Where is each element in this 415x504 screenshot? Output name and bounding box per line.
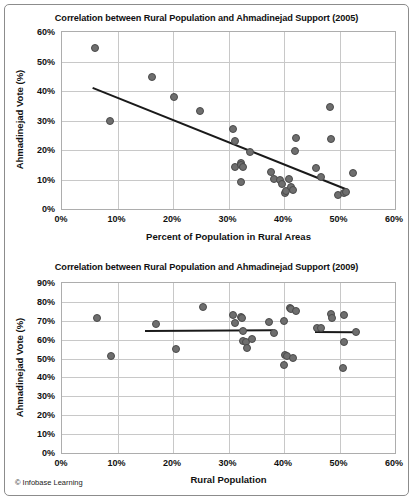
gridline-vertical	[118, 283, 119, 453]
scatter-point	[270, 329, 278, 337]
scatter-point	[172, 345, 180, 353]
chart-title-2009: Correlation between Rural Population and…	[5, 262, 408, 272]
trend-line	[92, 87, 348, 191]
chart-panel-2005: Correlation between Rural Population and…	[5, 5, 408, 253]
y-tick-label: 90%	[7, 278, 55, 288]
scatter-point	[342, 188, 350, 196]
scatter-point	[243, 344, 251, 352]
scatter-point	[229, 125, 237, 133]
gridline-vertical	[229, 283, 230, 453]
y-tick-label: 0%	[7, 448, 55, 458]
scatter-point	[285, 175, 293, 183]
y-tick-label: 80%	[7, 297, 55, 307]
scatter-point	[292, 307, 300, 315]
y-tick-label: 0%	[7, 204, 55, 214]
x-tick-label: 10%	[97, 214, 137, 224]
scatter-point	[339, 364, 347, 372]
scatter-point	[349, 169, 357, 177]
scatter-point	[317, 324, 325, 332]
x-tick-label: 50%	[319, 214, 359, 224]
scatter-point	[327, 135, 335, 143]
chart-title-2005: Correlation between Rural Population and…	[5, 13, 408, 23]
scatter-point	[289, 186, 297, 194]
gridline-vertical	[340, 32, 341, 209]
scatter-point	[291, 147, 299, 155]
x-tick-label: 20%	[152, 214, 192, 224]
copyright-credit: © Infobase Learning	[15, 478, 83, 487]
scatter-point	[317, 173, 325, 181]
x-tick-label: 30%	[208, 458, 248, 468]
scatter-point	[239, 327, 247, 335]
trend-line	[145, 329, 273, 332]
plot-area-2009	[61, 282, 396, 454]
y-tick-label: 10%	[7, 429, 55, 439]
scatter-point	[106, 117, 114, 125]
y-axis-title-2009: Ahmadinejad Vote (%)	[14, 308, 25, 428]
scatter-point	[289, 354, 297, 362]
x-tick-label: 20%	[152, 458, 192, 468]
scatter-point	[280, 361, 288, 369]
x-axis-title-2009: Rural Population	[61, 474, 396, 485]
scatter-point	[237, 178, 245, 186]
figure-frame: Correlation between Rural Population and…	[4, 4, 409, 496]
scatter-point	[91, 44, 99, 52]
scatter-point	[246, 148, 254, 156]
gridline-vertical	[229, 32, 230, 209]
x-tick-label: 60%	[374, 458, 414, 468]
scatter-point	[199, 303, 207, 311]
x-tick-label: 60%	[374, 214, 414, 224]
gridline-vertical	[118, 32, 119, 209]
x-tick-label: 50%	[319, 458, 359, 468]
x-axis-title-2005: Percent of Population in Rural Areas	[61, 231, 396, 242]
x-tick-label: 40%	[263, 214, 303, 224]
scatter-point	[292, 134, 300, 142]
scatter-point	[312, 164, 320, 172]
scatter-point	[152, 320, 160, 328]
scatter-point	[170, 93, 178, 101]
scatter-point	[352, 328, 360, 336]
x-tick-label: 40%	[263, 458, 303, 468]
gridline-vertical	[173, 283, 174, 453]
plot-area-2005	[61, 31, 396, 210]
scatter-point	[239, 163, 247, 171]
y-axis-title-2005: Ahmadinejad Vote (%)	[14, 60, 25, 180]
x-tick-label: 0%	[41, 214, 81, 224]
x-tick-label: 0%	[41, 458, 81, 468]
scatter-point	[340, 338, 348, 346]
y-tick-label: 60%	[7, 27, 55, 37]
scatter-point	[265, 318, 273, 326]
scatter-point	[280, 317, 288, 325]
x-tick-label: 10%	[97, 458, 137, 468]
scatter-point	[326, 103, 334, 111]
scatter-point	[340, 311, 348, 319]
scatter-point	[231, 137, 239, 145]
scatter-point	[196, 107, 204, 115]
x-tick-label: 30%	[208, 214, 248, 224]
scatter-point	[248, 335, 256, 343]
scatter-point	[148, 73, 156, 81]
